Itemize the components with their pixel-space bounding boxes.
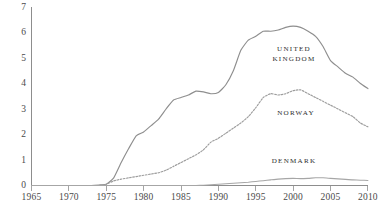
- y-tick-label-2: 2: [12, 130, 26, 140]
- series-annotation-united-kingdom-line2: KINGDOM: [252, 54, 336, 64]
- y-tick-label-5: 5: [12, 54, 26, 64]
- series-annotation-norway-line1: NORWAY: [254, 108, 338, 118]
- y-tick-label-4: 4: [12, 79, 26, 89]
- series-annotation-norway: NORWAY: [254, 108, 338, 118]
- y-tick-label-7: 7: [12, 3, 26, 13]
- series-annotation-united-kingdom-line1: UNITED: [252, 44, 336, 54]
- series-line-denmark: [32, 178, 368, 186]
- x-tick-marks: [32, 186, 368, 191]
- plot-area: [0, 0, 385, 213]
- y-tick-label-0: 0: [12, 181, 26, 191]
- x-tick-label-2010: 2010: [346, 193, 385, 203]
- y-tick-label-3: 3: [12, 105, 26, 115]
- series-annotation-united-kingdom: UNITED KINGDOM: [252, 44, 336, 65]
- series-line-norway: [32, 90, 368, 186]
- y-tick-label-1: 1: [12, 156, 26, 166]
- y-tick-label-6: 6: [12, 28, 26, 38]
- series-annotation-denmark: DENMARK: [250, 156, 338, 166]
- series-annotation-denmark-line1: DENMARK: [250, 156, 338, 166]
- line-chart: 7 6 5 4 3 2 1 0 1965 1970 1975 1980 1985…: [0, 0, 385, 213]
